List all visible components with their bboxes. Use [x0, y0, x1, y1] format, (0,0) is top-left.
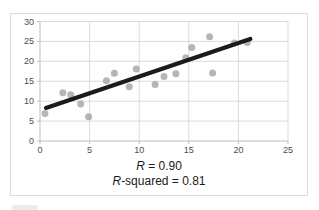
x-tick-label: 25 [283, 145, 293, 155]
r-symbol: R [136, 159, 145, 173]
x-tick-label: 20 [233, 145, 243, 155]
correlation-caption: R = 0.90 R-squared = 0.81 [10, 159, 308, 189]
scatter-point [111, 70, 118, 77]
cropped-text-artifact [12, 205, 38, 210]
scatter-point [59, 89, 66, 96]
r-squared-caption: R-squared = 0.81 [10, 174, 308, 189]
scatter-point [152, 81, 159, 88]
trend-line [46, 39, 250, 108]
r-value-caption: R = 0.90 [10, 159, 308, 174]
scatter-point [161, 73, 168, 80]
scatter-point [126, 83, 133, 90]
r-value-text: = 0.90 [145, 159, 182, 173]
r-squared-text: -squared = 0.81 [121, 174, 205, 188]
scatter-point [77, 100, 84, 107]
y-tick-label: 25 [24, 36, 34, 46]
x-tick-label: 10 [134, 145, 144, 155]
y-tick-label: 15 [24, 76, 34, 86]
x-tick-label: 15 [184, 145, 194, 155]
y-tick-label: 10 [24, 96, 34, 106]
scatter-point [103, 77, 110, 84]
x-tick-label: 0 [37, 145, 42, 155]
y-tick-label: 5 [29, 116, 34, 126]
x-tick-label: 5 [87, 145, 92, 155]
y-tick-label: 20 [24, 56, 34, 66]
r-squared-symbol: R [112, 174, 121, 188]
scatter-point [209, 69, 216, 76]
scatter-point [85, 113, 92, 120]
y-tick-label: 0 [29, 136, 34, 146]
scatter-point [172, 70, 179, 77]
scatter-point [188, 44, 195, 51]
y-tick-label: 30 [24, 17, 34, 27]
scatter-point [206, 33, 213, 40]
scatter-point [133, 65, 140, 72]
scatter-point [41, 110, 48, 117]
